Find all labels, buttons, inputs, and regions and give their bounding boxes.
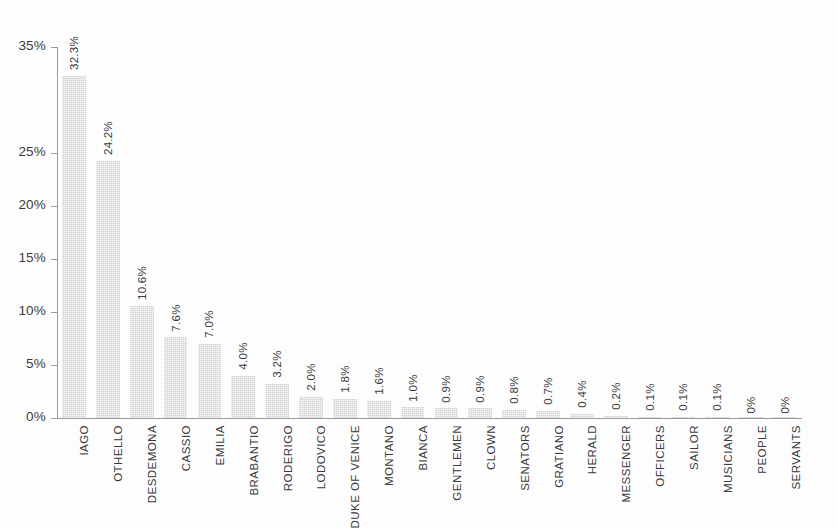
bar[interactable] (570, 414, 594, 418)
x-axis-tick-label: GENTLEMEN (451, 425, 463, 501)
bar-value-label: 3.2% (270, 348, 284, 380)
bar[interactable] (739, 417, 763, 418)
x-axis-tick-label: OFFICERS (654, 425, 666, 487)
x-axis-tick-label: SENATORS (519, 425, 531, 491)
bar-value-label: 10.6% (135, 264, 149, 302)
bar-value-label: 7.6% (169, 302, 183, 334)
bar[interactable] (231, 376, 255, 418)
x-axis-tick-label: OTHELLO (112, 425, 124, 482)
x-axis-tick-label: CASSIO (180, 425, 192, 471)
bar[interactable] (299, 397, 323, 418)
x-axis-tick-label: MESSENGER (620, 425, 632, 503)
bar[interactable] (773, 417, 797, 418)
bar[interactable] (536, 411, 560, 418)
x-axis-tick-label: BIANCA (417, 425, 429, 471)
bar-value-label: 7.0% (202, 308, 216, 340)
x-axis-tick-label: CLOWN (485, 425, 497, 470)
bar-slot[interactable]: 0.1% (667, 0, 701, 419)
bar[interactable] (705, 417, 729, 418)
y-axis-tick-label: 0% (0, 409, 46, 424)
bar-value-label: 1.8% (338, 363, 352, 395)
bar-value-label: 0.4% (575, 378, 589, 410)
bar-slot[interactable]: 0.2% (599, 0, 633, 419)
bar-value-label: 0% (744, 395, 758, 414)
y-axis-tick-label: 10% (0, 303, 46, 318)
bar[interactable] (367, 401, 391, 418)
bar-slot[interactable]: 1.0% (396, 0, 430, 419)
bar-slot[interactable]: 4.0% (226, 0, 260, 419)
x-axis-tick-label: DESDEMONA (146, 425, 158, 503)
x-axis-labels: IAGOOTHELLODESDEMONACASSIOEMILIABRABANTI… (57, 419, 802, 523)
bar-slot[interactable]: 0.4% (565, 0, 599, 419)
bar-slot[interactable]: 10.6% (125, 0, 159, 419)
y-axis-tick-label: 15% (0, 250, 46, 265)
x-axis-tick-label: SAILOR (688, 425, 700, 470)
bar-slot[interactable]: 0% (734, 0, 768, 419)
bar-slot[interactable]: 0.7% (531, 0, 565, 419)
y-axis-tick-label: 5% (0, 356, 46, 371)
bar-value-label: 32.3% (67, 34, 81, 72)
bar-value-label: 1.0% (406, 372, 420, 404)
x-axis-tick-label: MONTANO (383, 425, 395, 486)
x-axis-tick-label: DUKE OF VENICE (349, 425, 361, 528)
bar[interactable] (198, 344, 222, 418)
bar-value-label: 0.9% (473, 373, 487, 405)
bar[interactable] (164, 337, 188, 418)
y-axis-tick-label: 25% (0, 144, 46, 159)
x-axis-tick-label: MUSICIANS (722, 425, 734, 493)
bar-slot[interactable]: 2.0% (294, 0, 328, 419)
bar-value-label: 0.1% (676, 381, 690, 413)
bar[interactable] (435, 408, 459, 418)
bar-slot[interactable]: 0.9% (463, 0, 497, 419)
bar-slot[interactable]: 0.8% (497, 0, 531, 419)
bar-value-label: 0.8% (507, 374, 521, 406)
bar-slot[interactable]: 0.1% (700, 0, 734, 419)
bars-group: 32.3%24.2%10.6%7.6%7.0%4.0%3.2%2.0%1.8%1… (57, 0, 802, 419)
bar[interactable] (468, 408, 492, 418)
bar-value-label: 0.7% (541, 375, 555, 407)
bar[interactable] (401, 407, 425, 418)
x-axis-tick-label: BRABANTIO (248, 425, 260, 496)
bar[interactable] (604, 416, 628, 418)
bar[interactable] (502, 410, 526, 418)
bar-value-label: 0.1% (643, 381, 657, 413)
bar-value-label: 1.6% (372, 365, 386, 397)
bar-slot[interactable]: 0% (768, 0, 802, 419)
x-axis-tick-label: IAGO (78, 425, 90, 456)
bar-value-label: 0.1% (710, 381, 724, 413)
y-axis-tick-label: 35% (0, 38, 46, 53)
bar-slot[interactable]: 1.6% (362, 0, 396, 419)
bar-slot[interactable]: 0.9% (430, 0, 464, 419)
bar[interactable] (672, 417, 696, 418)
bar-slot[interactable]: 0.1% (633, 0, 667, 419)
bar-slot[interactable]: 7.0% (192, 0, 226, 419)
bar-value-label: 2.0% (304, 361, 318, 393)
bar-value-label: 0.2% (609, 380, 623, 412)
y-axis-tick-label: 20% (0, 197, 46, 212)
bar[interactable] (638, 417, 662, 418)
bar[interactable] (265, 384, 289, 418)
bar-value-label: 0% (778, 395, 792, 414)
bar[interactable] (62, 76, 86, 418)
bar[interactable] (96, 161, 120, 418)
bar-slot[interactable]: 24.2% (91, 0, 125, 419)
bar-value-label: 0.9% (439, 373, 453, 405)
x-axis-tick-label: SERVANTS (790, 425, 802, 490)
x-axis-tick-label: RODERIGO (282, 425, 294, 491)
bar-value-label: 4.0% (236, 340, 250, 372)
bar[interactable] (333, 399, 357, 418)
x-axis-tick-label: EMILIA (214, 425, 226, 465)
bar-slot[interactable]: 32.3% (57, 0, 91, 419)
bar-slot[interactable]: 7.6% (159, 0, 193, 419)
x-axis-tick-label: GRATIANO (553, 425, 565, 488)
bar[interactable] (130, 306, 154, 418)
x-axis-tick-label: HERALD (586, 425, 598, 474)
x-axis-tick-label: LODOVICO (315, 425, 327, 489)
x-axis-tick-label: PEOPLE (756, 425, 768, 474)
bar-value-label: 24.2% (101, 119, 115, 157)
bar-slot[interactable]: 3.2% (260, 0, 294, 419)
bar-slot[interactable]: 1.8% (328, 0, 362, 419)
